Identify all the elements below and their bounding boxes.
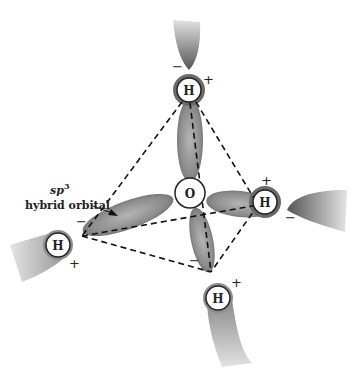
orbital-lobe-left <box>78 185 178 244</box>
hydrogen-left: H <box>46 233 70 257</box>
oxygen-atom: O <box>175 178 205 208</box>
oxygen-label: O <box>185 187 195 201</box>
plus-sign-right: + <box>261 173 272 188</box>
hydrogen-bottom: H <box>206 286 230 310</box>
hydrogen-right: H <box>253 190 277 214</box>
svg-text:sp3: sp3 <box>50 181 70 197</box>
plus-sign-top: + <box>203 72 214 87</box>
hydrogen-label: H <box>52 239 63 253</box>
hydrogen-top: H <box>177 78 201 102</box>
minus-sign-right: − <box>285 210 296 225</box>
hydrogen-label: H <box>212 292 223 306</box>
annotation-superscript: 3 <box>64 181 70 191</box>
minus-sign-bottom: − <box>189 253 200 268</box>
plus-sign-bottom: + <box>231 275 242 290</box>
right-neighbor-orbital <box>287 190 347 232</box>
annotation-sp: sp <box>50 184 64 197</box>
hydrogen-label: H <box>259 196 270 210</box>
annotation-hybrid-orbital: hybrid orbital <box>25 199 110 212</box>
minus-sign-left: − <box>76 214 87 229</box>
minus-sign-top: − <box>172 59 183 74</box>
plus-sign-left: + <box>69 256 80 271</box>
hydrogen-label: H <box>183 84 194 98</box>
tetrahedron-edges <box>82 102 258 272</box>
water-tetrahedral-diagram: O H H H H − + + − + − + − sp3 hybrid orb… <box>0 0 363 381</box>
orbital-lobe-top <box>177 98 203 182</box>
sp3-annotation: sp3 hybrid orbital <box>25 181 118 216</box>
